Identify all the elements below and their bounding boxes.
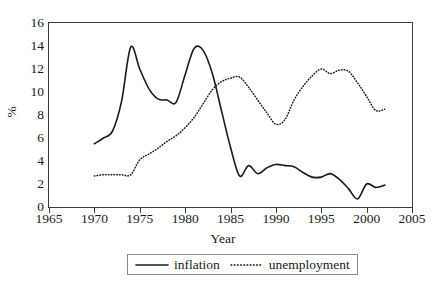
legend-swatch-dotted-icon	[230, 260, 264, 270]
y-axis-tick-label: 2	[14, 177, 44, 191]
y-axis-tick-label: 14	[14, 39, 44, 53]
y-axis-tick-label: 16	[14, 16, 44, 30]
x-axis-tick-label: 2005	[382, 212, 442, 226]
x-axis-tick-labels: 196519701975198019851990199520002005	[0, 212, 446, 230]
y-axis-tick-label: 10	[14, 85, 44, 99]
legend-swatch-solid-icon	[135, 260, 169, 270]
chart-figure: 0246810121416 % 196519701975198019851990…	[0, 0, 446, 291]
x-axis-title: Year	[0, 232, 446, 246]
y-axis-tick-label: 12	[14, 62, 44, 76]
y-axis-title: %	[5, 106, 19, 117]
series-line-unemployment	[94, 69, 384, 176]
legend-label: unemployment	[269, 258, 350, 272]
y-axis-tick-label: 4	[14, 154, 44, 168]
legend-label: inflation	[174, 258, 220, 272]
plot-lines	[49, 23, 412, 207]
y-axis-tick-label: 6	[14, 131, 44, 145]
chart-legend: inflationunemployment	[127, 254, 358, 275]
series-line-inflation	[94, 46, 384, 199]
legend-item-unemployment: unemployment	[230, 258, 350, 272]
legend-item-inflation: inflation	[135, 258, 220, 272]
plot-area	[48, 22, 413, 208]
